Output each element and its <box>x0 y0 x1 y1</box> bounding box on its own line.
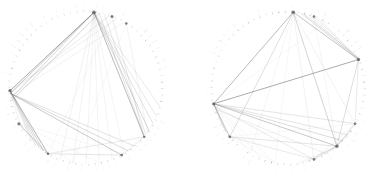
graph-node[interactable] <box>328 23 329 24</box>
graph-node[interactable] <box>221 124 222 125</box>
graph-node[interactable] <box>332 149 333 150</box>
graph-node[interactable] <box>95 163 96 164</box>
graph-edge[interactable] <box>319 19 359 60</box>
graph-node[interactable] <box>107 160 108 161</box>
graph-node[interactable] <box>130 149 131 150</box>
graph-edge[interactable] <box>48 17 112 154</box>
graph-node[interactable] <box>285 11 286 12</box>
graph-edge[interactable] <box>112 17 144 137</box>
graph-node[interactable] <box>136 31 137 32</box>
graph-edge[interactable] <box>11 13 99 101</box>
graph-hub-node[interactable] <box>212 102 215 105</box>
graph-node[interactable] <box>135 145 136 146</box>
graph-node[interactable] <box>10 81 11 82</box>
graph-node[interactable] <box>161 95 162 96</box>
graph-node[interactable] <box>346 136 347 137</box>
graph-node[interactable] <box>351 45 352 46</box>
graph-node[interactable] <box>159 107 160 108</box>
graph-node[interactable] <box>297 163 298 164</box>
graph-node[interactable] <box>265 160 266 161</box>
graph-node[interactable] <box>327 153 328 154</box>
graph-node[interactable] <box>120 20 121 21</box>
graph-node[interactable] <box>363 82 364 83</box>
graph-node[interactable] <box>51 155 52 156</box>
graph-edge[interactable] <box>214 22 326 104</box>
graph-node[interactable] <box>157 114 158 115</box>
graph-node[interactable] <box>125 153 126 154</box>
graph-node[interactable] <box>213 74 214 75</box>
graph-node[interactable] <box>247 152 248 153</box>
graph-node[interactable] <box>70 13 71 14</box>
graph-node[interactable] <box>149 46 150 47</box>
graph-node[interactable] <box>30 140 31 141</box>
graph-node[interactable] <box>155 119 156 120</box>
graph-node[interactable] <box>361 69 362 70</box>
graph-node[interactable] <box>303 162 304 163</box>
graph-edge[interactable] <box>214 104 348 135</box>
graph-node[interactable] <box>161 75 162 76</box>
graph-node[interactable] <box>266 15 267 16</box>
graph-hub-node[interactable] <box>228 135 231 138</box>
graph-node[interactable] <box>354 51 355 52</box>
graph-node[interactable] <box>298 12 299 13</box>
graph-node[interactable] <box>213 100 214 101</box>
graph-hub-node[interactable] <box>47 153 50 156</box>
graph-node[interactable] <box>22 130 23 131</box>
graph-node[interactable] <box>23 45 24 46</box>
graph-node[interactable] <box>343 35 344 36</box>
graph-edge[interactable] <box>314 124 355 160</box>
graph-node[interactable] <box>364 88 365 89</box>
graph-node[interactable] <box>359 63 360 64</box>
graph-node[interactable] <box>114 17 115 18</box>
graph-node[interactable] <box>228 135 229 136</box>
graph-node[interactable] <box>31 34 32 35</box>
graph-node[interactable] <box>14 62 15 63</box>
graph-edge[interactable] <box>275 12 294 163</box>
graph-node[interactable] <box>357 57 358 58</box>
graph-edge[interactable] <box>10 93 128 151</box>
graph-node[interactable] <box>19 50 20 51</box>
graph-hub-node[interactable] <box>313 15 316 18</box>
graph-node[interactable] <box>69 162 70 163</box>
graph-node[interactable] <box>216 62 217 63</box>
graph-node[interactable] <box>224 130 225 131</box>
graph-node[interactable] <box>316 17 317 18</box>
graph-node[interactable] <box>161 88 162 89</box>
graph-node[interactable] <box>161 82 162 83</box>
graph-node[interactable] <box>157 63 158 64</box>
graph-node[interactable] <box>363 95 364 96</box>
graph-node[interactable] <box>76 12 77 13</box>
graph-node[interactable] <box>216 112 217 113</box>
graph-hub-node[interactable] <box>313 158 316 161</box>
graph-node[interactable] <box>160 101 161 102</box>
graph-node[interactable] <box>309 160 310 161</box>
graph-edge[interactable] <box>230 124 355 137</box>
graph-node[interactable] <box>83 12 84 13</box>
graph-node[interactable] <box>271 162 272 163</box>
graph-node[interactable] <box>253 155 254 156</box>
graph-hub-node[interactable] <box>125 22 128 25</box>
graph-edge[interactable] <box>299 146 337 163</box>
graph-hub-node[interactable] <box>292 10 296 14</box>
graph-hub-node[interactable] <box>120 154 123 157</box>
graph-node[interactable] <box>322 20 323 21</box>
graph-node[interactable] <box>14 112 15 113</box>
graph-edge[interactable] <box>355 60 358 124</box>
graph-node[interactable] <box>119 156 120 157</box>
graph-node[interactable] <box>277 163 278 164</box>
graph-edge[interactable] <box>99 13 144 137</box>
graph-node[interactable] <box>259 158 260 159</box>
graph-node[interactable] <box>63 160 64 161</box>
graph-node[interactable] <box>225 45 226 46</box>
graph-node[interactable] <box>315 158 316 159</box>
graph-node[interactable] <box>26 135 27 136</box>
graph-node[interactable] <box>237 144 238 145</box>
graph-node[interactable] <box>10 93 11 94</box>
graph-node[interactable] <box>145 40 146 41</box>
graph-node[interactable] <box>152 125 153 126</box>
graph-node[interactable] <box>64 15 65 16</box>
graph-node[interactable] <box>108 15 109 16</box>
graph-node[interactable] <box>89 12 90 13</box>
graph-hub-node[interactable] <box>354 122 357 125</box>
graph-node[interactable] <box>310 15 311 16</box>
